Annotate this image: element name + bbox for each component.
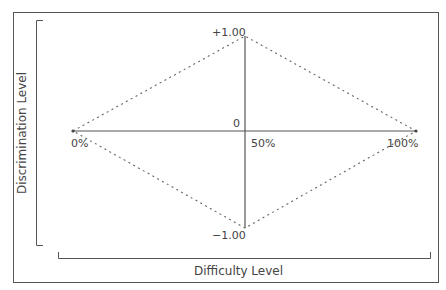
label-zero: 0: [233, 118, 240, 129]
diagram-canvas: [0, 0, 446, 290]
label-100-percent: 100%: [387, 138, 418, 149]
label-50-percent: 50%: [251, 138, 275, 149]
label-minus-one: −1.00: [212, 230, 246, 241]
label-plus-one: +1.00: [212, 27, 246, 38]
left-endpoint: [71, 129, 74, 132]
right-endpoint: [414, 129, 417, 132]
x-axis-bracket: [59, 252, 431, 259]
y-axis-bracket: [37, 21, 44, 246]
y-axis-label: Discrimination Level: [16, 72, 28, 194]
x-axis-label: Difficulty Level: [194, 265, 283, 277]
label-0-percent: 0%: [71, 138, 88, 149]
